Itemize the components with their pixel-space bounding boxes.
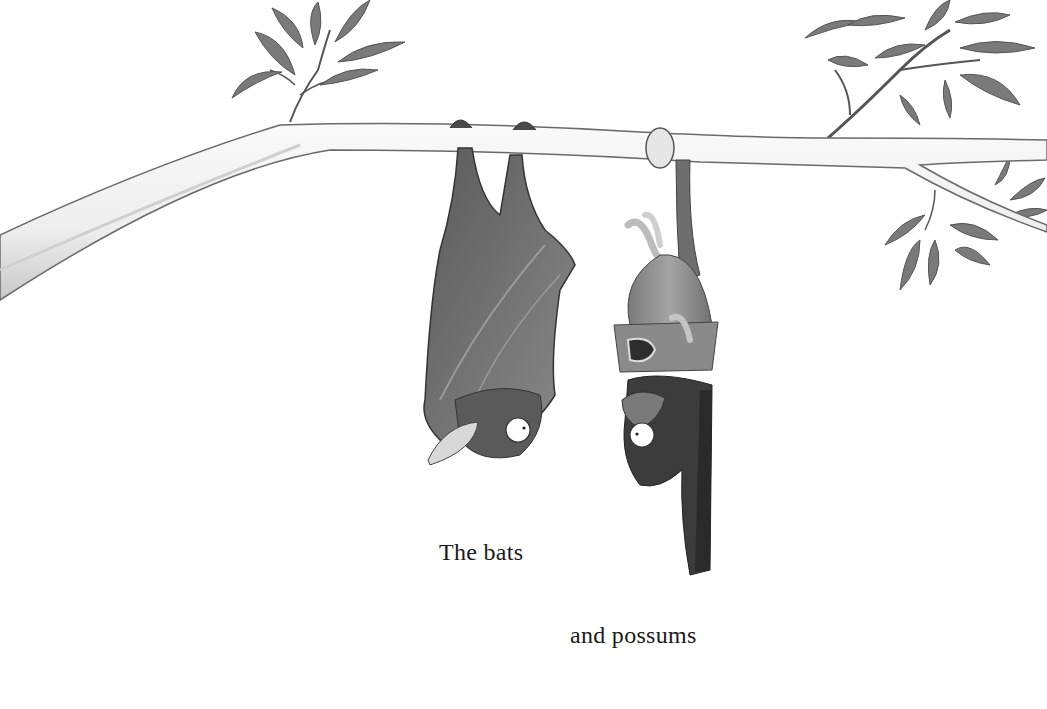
illustration	[0, 0, 1047, 709]
bat	[424, 120, 575, 465]
leaves-left	[232, 0, 405, 122]
possum	[614, 128, 718, 575]
caption-the-bats: The bats	[439, 539, 523, 566]
caption-and-possums: and possums	[570, 622, 697, 649]
